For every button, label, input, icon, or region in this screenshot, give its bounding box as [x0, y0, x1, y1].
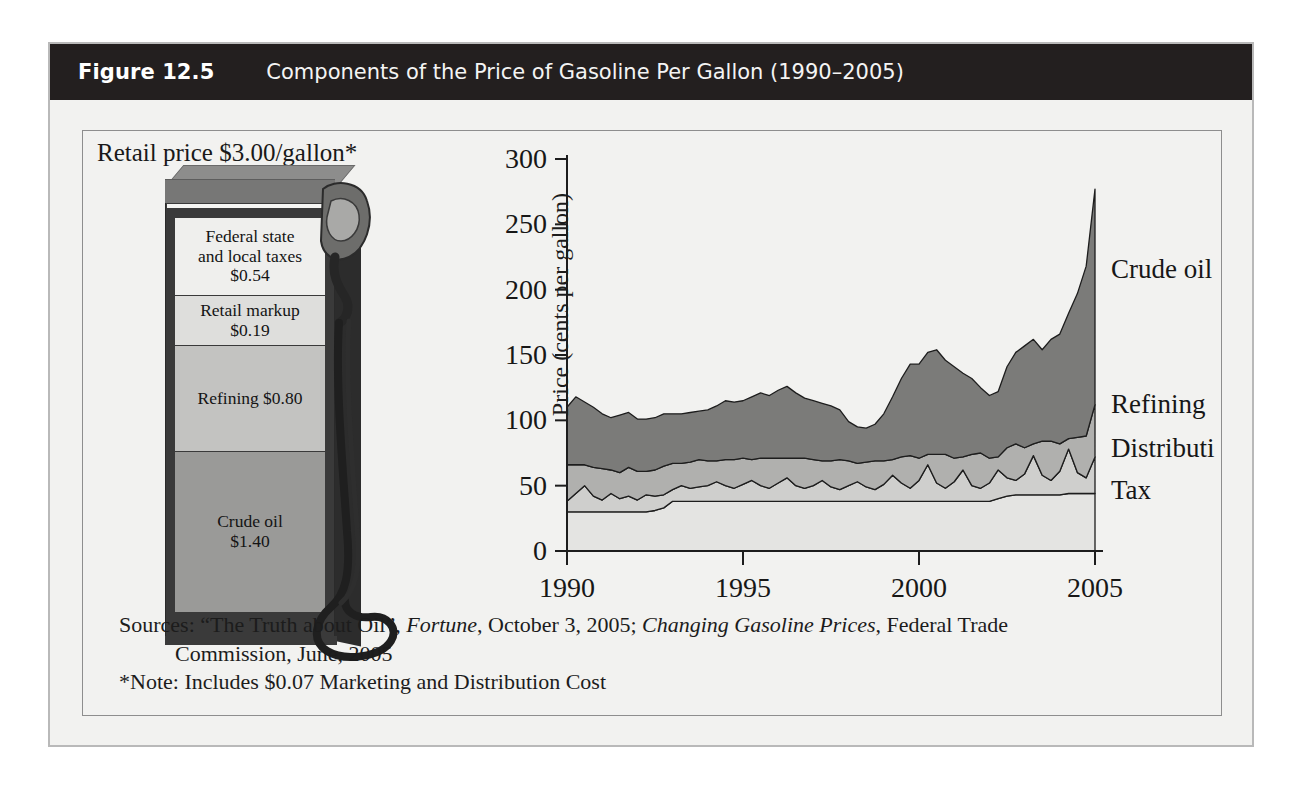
sources-italic-changing-gasoline-prices: Changing Gasoline Prices: [642, 612, 875, 637]
y-tick-label: 300: [505, 143, 547, 174]
y-tick-label: 250: [505, 208, 547, 239]
sources-suffix: , Federal Trade: [876, 612, 1009, 637]
series-annotation-crude-oil: Crude oil: [1111, 254, 1212, 284]
sources-line-2: Commission, June, 2005: [119, 640, 1189, 669]
figure-title: Components of the Price of Gasoline Per …: [266, 60, 903, 84]
pump-segment-refining-label: Refining $0.80: [198, 389, 303, 409]
pump-segment-crude-oil: Crude oil$1.40: [175, 451, 325, 613]
series-annotation-tax: Tax: [1111, 475, 1152, 505]
sources-middle: , October 3, 2005;: [477, 612, 642, 637]
sources-note-line-3: *Note: Includes $0.07 Marketing and Dist…: [119, 668, 1189, 697]
figure-number: Figure 12.5: [78, 60, 214, 84]
figure-inner-panel: Retail price $3.00/gallon* Federal state…: [82, 130, 1222, 716]
x-tick-label: 2005: [1067, 572, 1123, 603]
fuel-nozzle-and-hose-icon: [305, 171, 445, 671]
y-tick-label: 0: [533, 535, 547, 566]
area-band-crude-oil: [567, 189, 1095, 473]
sources-note: Sources: “The Truth about Oil”, Fortune,…: [119, 611, 1189, 697]
x-tick-label: 2000: [891, 572, 947, 603]
sources-italic-fortune: Fortune: [406, 612, 477, 637]
chart-y-axis-title: Price (cents per gallon): [547, 193, 574, 416]
y-tick-label: 100: [505, 404, 547, 435]
y-tick-label: 50: [519, 470, 547, 501]
pump-segment-retail-markup: Retail markup$0.19: [175, 295, 325, 345]
pump-segment-taxes-label: Federal stateand local taxes$0.54: [198, 227, 302, 286]
retail-price-caption: Retail price $3.00/gallon*: [97, 139, 357, 167]
figure-container: Figure 12.5 Components of the Price of G…: [48, 42, 1254, 747]
y-tick-label: 200: [505, 274, 547, 305]
stacked-area-chart: Price (cents per gallon) 050100150200250…: [455, 141, 1215, 641]
pump-segment-refining: Refining $0.80: [175, 345, 325, 451]
pump-segment-taxes: Federal stateand local taxes$0.54: [175, 217, 325, 295]
sources-line-1: Sources: “The Truth about Oil”, Fortune,…: [119, 611, 1189, 640]
series-annotation-distribution: Distribution: [1111, 433, 1215, 463]
sources-prefix: Sources: “The Truth about Oil”,: [119, 612, 406, 637]
figure-title-bar: Figure 12.5 Components of the Price of G…: [50, 44, 1252, 100]
x-tick-label: 1990: [539, 572, 595, 603]
series-annotation-refining: Refining: [1111, 389, 1206, 419]
pump-segment-crude-oil-label: Crude oil$1.40: [217, 512, 283, 551]
y-tick-label: 150: [505, 339, 547, 370]
pump-segment-retail-markup-label: Retail markup$0.19: [200, 301, 300, 340]
x-tick-label: 1995: [715, 572, 771, 603]
